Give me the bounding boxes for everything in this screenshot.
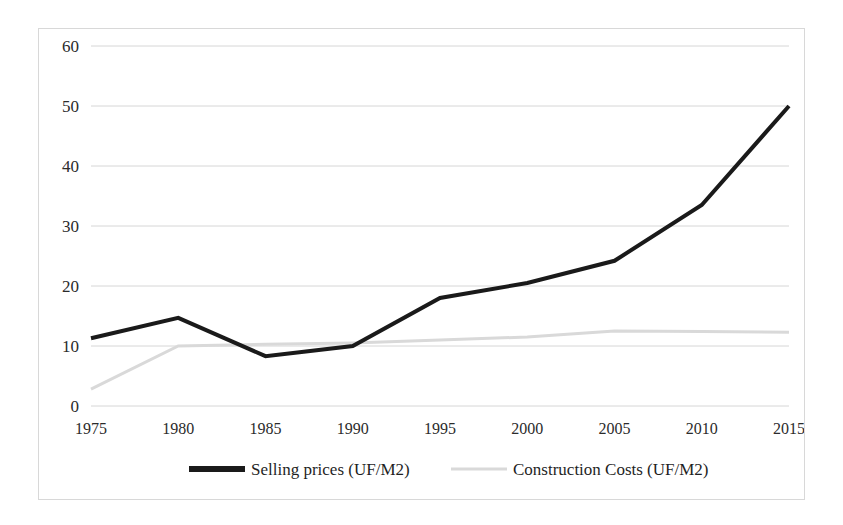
gridlines-group <box>91 46 789 406</box>
line-chart: 0102030405060 19751980198519901995200020… <box>39 29 804 499</box>
y-tick-label: 30 <box>62 217 79 236</box>
y-tick-label: 0 <box>71 397 80 416</box>
chart-legend: Selling prices (UF/M2)Construction Costs… <box>189 460 709 479</box>
chart-frame: 0102030405060 19751980198519901995200020… <box>38 28 805 500</box>
x-tick-label: 1975 <box>75 420 107 437</box>
x-tick-label: 1985 <box>250 420 282 437</box>
x-tick-label: 2010 <box>686 420 718 437</box>
y-tick-label: 10 <box>62 337 79 356</box>
y-tick-label: 60 <box>62 37 79 56</box>
x-tick-label: 1990 <box>337 420 369 437</box>
series-line <box>91 331 789 389</box>
y-tick-label: 50 <box>62 97 79 116</box>
y-tick-label: 20 <box>62 277 79 296</box>
x-tick-label: 2005 <box>599 420 631 437</box>
x-tick-label: 2015 <box>773 420 804 437</box>
legend-label: Selling prices (UF/M2) <box>251 460 410 479</box>
x-tick-label: 1980 <box>162 420 194 437</box>
x-tick-label: 2000 <box>511 420 543 437</box>
y-axis-tick-labels: 0102030405060 <box>62 37 79 416</box>
x-axis-tick-labels: 197519801985199019952000200520102015 <box>75 420 804 437</box>
legend-label: Construction Costs (UF/M2) <box>513 460 709 479</box>
data-series-group <box>91 106 789 389</box>
series-line <box>91 106 789 356</box>
x-tick-label: 1995 <box>424 420 456 437</box>
y-tick-label: 40 <box>62 157 79 176</box>
